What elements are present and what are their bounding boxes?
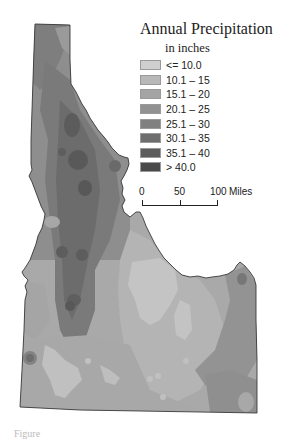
legend-title: Annual Precipitation: [140, 20, 273, 38]
legend-label: 25.1 – 30: [166, 118, 210, 130]
scale-tick-label: 50: [174, 186, 185, 197]
scale-unit-label: Miles: [229, 186, 252, 197]
scale-tick-label: 100: [210, 186, 227, 197]
legend-items: <= 10.0 10.1 – 15 15.1 – 20 20.1 – 25 25…: [140, 58, 210, 175]
legend-item: 20.1 – 25: [140, 102, 210, 117]
legend-swatch: [140, 60, 161, 70]
legend-swatch: [140, 75, 161, 85]
legend-swatch: [140, 148, 161, 158]
scale-tick: [217, 200, 218, 206]
legend-swatch: [140, 133, 161, 143]
legend-label: <= 10.0: [166, 59, 202, 71]
legend-label: 20.1 – 25: [166, 103, 210, 115]
legend-item: 15.1 – 20: [140, 87, 210, 102]
legend-swatch: [140, 104, 161, 114]
legend-label: > 40.0: [166, 161, 196, 173]
legend-item: 10.1 – 15: [140, 73, 210, 88]
legend-swatch: [140, 119, 161, 129]
scale-tick-label: 0: [139, 186, 145, 197]
figure-caption: Figure: [14, 428, 40, 439]
legend-item: 30.1 – 35: [140, 131, 210, 146]
legend-item: 25.1 – 30: [140, 116, 210, 131]
legend-label: 30.1 – 35: [166, 132, 210, 144]
legend-label: 35.1 – 40: [166, 147, 210, 159]
scale-tick: [142, 200, 143, 206]
scale-tick: [180, 200, 181, 206]
legend-subtitle: in inches: [165, 41, 210, 56]
legend-item: > 40.0: [140, 160, 210, 175]
scale-bar: 0 50 100 Miles: [138, 186, 278, 210]
legend-swatch: [140, 162, 161, 172]
legend-label: 10.1 – 15: [166, 74, 210, 86]
legend-item: 35.1 – 40: [140, 146, 210, 161]
legend-swatch: [140, 89, 161, 99]
legend-item: <= 10.0: [140, 58, 210, 73]
legend-label: 15.1 – 20: [166, 88, 210, 100]
